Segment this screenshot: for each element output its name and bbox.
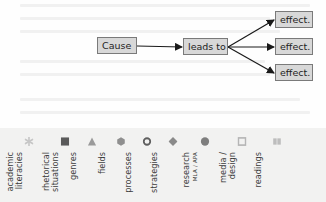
diamond-icon [169,137,178,146]
legend-label: design [228,152,237,198]
show-through-text [20,111,310,114]
cause-box: Cause [97,37,137,54]
legend-label: MLA / APA [191,152,200,198]
effect-box: effect. [275,38,313,55]
leads-to-box: leads to [183,38,228,55]
ring-icon [143,137,152,146]
asterisk-icon [25,137,34,146]
legend-label: fields [98,152,107,198]
legend-item-academic-literacies[interactable]: academic literacies [14,128,44,202]
square-icon [61,137,70,146]
effect-box: effect. [275,11,313,28]
triangle-icon [88,137,97,146]
legend-label: processes [124,152,133,198]
effect-box: effect. [275,64,313,81]
chapter-nav-legend: academic literacies rhetorical situation… [0,128,326,202]
arrow-to-effect-1 [228,20,274,47]
legend-label: literacies [15,152,24,198]
arrow-cause-to-link [137,46,182,47]
legend-label: genres [69,152,78,198]
book-icon [273,137,282,146]
legend-item-research[interactable]: research MLA / APA [190,128,220,202]
hollow-square-icon [238,137,247,146]
hexagon-icon [117,137,126,146]
legend-label: research [182,152,191,198]
cause-effect-diagram: Cause leads to effect. effect. effect. [0,0,326,100]
legend-label: readings [254,152,263,198]
circle-icon [201,137,210,146]
legend-label: strategies [150,152,159,198]
arrow-to-effect-3 [228,47,274,73]
legend-item-readings[interactable]: readings [262,128,292,202]
legend-label: situations [51,152,60,198]
